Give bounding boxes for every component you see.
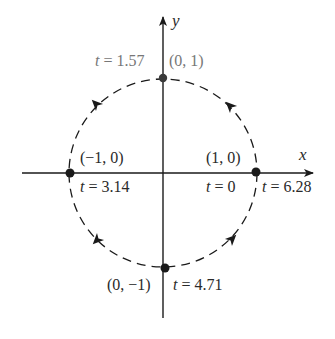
x-axis-label: x [298, 145, 307, 164]
right-t-start-label: t = 0 [206, 178, 235, 195]
top-t-value: = 1.57 [99, 52, 144, 69]
unit-circle-diagram: y x t = 1.57 (0, 1) (−1, 0) t = 3.14 (1,… [0, 0, 335, 339]
left-coord-label: (−1, 0) [80, 149, 124, 167]
direction-arrow-lower-right-icon [225, 231, 240, 246]
right-t-end-value: = 6.28 [266, 178, 311, 195]
left-t-label: t = 3.14 [80, 178, 129, 195]
left-t-value: = 3.14 [84, 178, 129, 195]
bottom-t-label: t = 4.71 [173, 276, 222, 293]
direction-arrow-upper-left-icon [88, 96, 103, 111]
y-axis-label: y [170, 11, 180, 30]
right-coord-label: (1, 0) [206, 149, 241, 167]
point-right-marker [252, 168, 261, 177]
direction-arrow-lower-left-icon [89, 233, 104, 248]
top-coord-label: (0, 1) [169, 52, 204, 70]
point-top-marker [159, 74, 167, 82]
bottom-coord-label: (0, −1) [107, 276, 151, 294]
right-t-end-label: t = 6.28 [262, 178, 311, 195]
direction-arrow-upper-right-icon [222, 98, 237, 113]
point-bottom-marker [161, 264, 170, 273]
bottom-t-value: = 4.71 [177, 276, 222, 293]
point-left-marker [66, 169, 75, 178]
top-t-label: t = 1.57 [95, 52, 144, 69]
right-t-start-value: = 0 [210, 178, 235, 195]
